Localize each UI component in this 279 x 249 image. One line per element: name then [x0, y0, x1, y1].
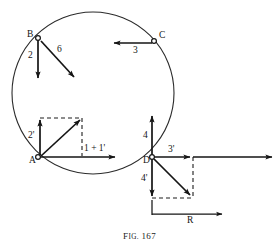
figure-caption: FIG. 167: [0, 231, 279, 241]
vector-a-resultant: [41, 120, 80, 156]
vector-d-resultant-diagonal: [154, 159, 190, 195]
label-resultant-r: R: [187, 216, 193, 226]
label-vector-4-prime: 4': [141, 174, 147, 184]
label-point-d: D: [143, 156, 150, 166]
figure-167: B 2 6 C 3 A 2' 1 + 1' D 4 3' 4' R FIG. 1…: [0, 0, 279, 249]
label-vector-one-plus-one-prime: 1 + 1': [84, 144, 105, 154]
label-point-b: B: [27, 30, 33, 40]
label-vector-3-prime: 3': [168, 145, 174, 155]
label-point-a: A: [29, 156, 36, 166]
point-c-marker: [152, 39, 157, 44]
point-d-marker: [150, 155, 155, 160]
point-a-marker: [36, 155, 41, 160]
caption-smallcaps: IG.: [128, 233, 139, 241]
figure-drawing-canvas: [0, 0, 279, 249]
label-point-c: C: [159, 31, 165, 41]
point-b-marker: [36, 36, 41, 41]
label-vector-6: 6: [57, 45, 62, 55]
label-vector-2-prime: 2': [28, 131, 34, 141]
label-vector-3: 3: [133, 46, 138, 56]
caption-number: 167: [142, 231, 156, 241]
label-vector-4: 4: [143, 131, 148, 141]
label-vector-2: 2: [28, 51, 33, 61]
